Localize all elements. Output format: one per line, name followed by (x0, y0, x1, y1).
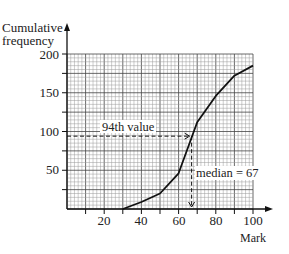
x-tick-label-100: 100 (243, 213, 263, 228)
y-tick-label-100: 100 (40, 124, 60, 139)
x-axis-label: Mark (240, 231, 266, 245)
y-tick-label-200: 200 (40, 47, 60, 62)
annotation-median: median = 67 (196, 166, 259, 180)
cumulative-frequency-chart: Cumulative frequency Mark 50 100 150 200… (0, 0, 289, 254)
y-tick-label-150: 150 (40, 85, 60, 100)
x-tick-label-40: 40 (135, 213, 148, 228)
y-axis-label-line2: frequency (2, 33, 54, 48)
x-axis-arrow-icon (265, 206, 273, 212)
x-tick-label-80: 80 (210, 213, 223, 228)
annotation-94th-value: 94th value (102, 120, 155, 134)
x-tick-label-20: 20 (98, 213, 111, 228)
x-tick-label-60: 60 (173, 213, 186, 228)
y-axis-arrow-icon (64, 23, 70, 31)
grid (67, 54, 253, 209)
y-tick-label-50: 50 (46, 162, 59, 177)
